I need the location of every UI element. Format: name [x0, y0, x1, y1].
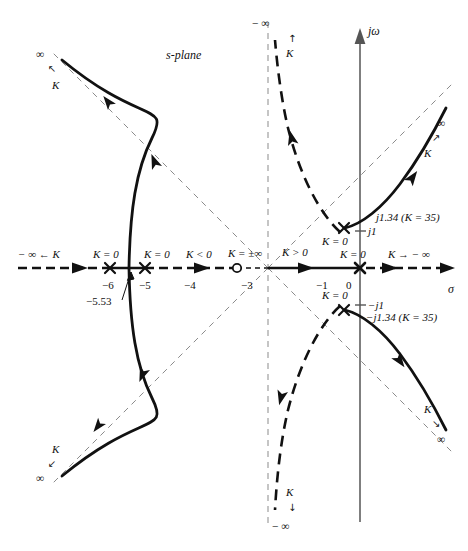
asymptote-lines [52, 22, 452, 524]
k-infinite-label: K = ±∞ [228, 248, 262, 259]
imaginary-axis-label: jω [368, 25, 380, 37]
k-label-bottom-vertical: K [286, 487, 293, 498]
infinity-label-top-right: ∞ [437, 118, 445, 130]
k-label-bottom-left: K [52, 444, 59, 455]
branch-arrow-bottom-vertical: ↓ [288, 503, 296, 513]
root-locus-plot [0, 0, 468, 551]
root-locus-figure: s-plane jω σ −6 −5 −4 −3 −1 0 j1 −j1 −5.… [0, 0, 468, 551]
jw-crossing-upper-label: j1.34 (K = 35) [376, 212, 440, 223]
tick-label-minus5: −5 [139, 280, 151, 291]
k-label-top-left: K [52, 80, 59, 91]
k-label-bottom-right: K [424, 404, 431, 415]
k-zero-label-complex-upper: K = 0 [322, 236, 348, 247]
real-axis-label: σ [448, 283, 454, 295]
k-zero-label-origin: K = 0 [340, 249, 366, 260]
s-plane-label: s-plane [166, 49, 201, 61]
k-to-minus-infinity-right-label: K → − ∞ [388, 249, 430, 260]
infinity-label-top-left: ∞ [36, 49, 44, 61]
asymptote-225deg [52, 268, 268, 484]
branch-arrow-top-right: ↗ [432, 133, 440, 143]
k-label-top-right: K [424, 148, 431, 159]
branch-arrow-top-vertical: ↑ [288, 34, 296, 44]
jw-crossing-lower-label: −j1.34 (K = 35) [366, 312, 437, 323]
k-zero-label-minus6: K = 0 [93, 249, 119, 260]
k-positive-label: K > 0 [282, 247, 308, 258]
imaginary-axis [355, 28, 366, 522]
branch-arrow-bottom-left: ↙ [48, 459, 56, 469]
tick-label-j1: j1 [368, 226, 377, 237]
k-negative-label: K < 0 [186, 249, 212, 260]
tick-label-minus4: −4 [184, 280, 196, 291]
infinity-label-bottom-right: ∞ [437, 434, 445, 446]
minus-infinity-label-top: − ∞ [252, 18, 270, 30]
locus-dashed-upper [275, 40, 340, 232]
infinity-label-bottom-left: ∞ [36, 473, 44, 485]
branch-arrow-top-left: ↖ [48, 64, 56, 74]
minus-infinity-label-bottom: − ∞ [272, 521, 290, 533]
k-zero-label-complex-lower: K = 0 [322, 290, 348, 301]
tick-label-minus-j1: −j1 [368, 300, 384, 311]
locus-positive-k-arrows [90, 93, 422, 435]
k-to-minus-infinity-left-label: − ∞ ← K [18, 249, 60, 260]
locus-negative-k [275, 40, 340, 510]
tick-label-minus3: −3 [241, 280, 253, 291]
k-label-top-vertical: K [286, 48, 293, 59]
locus-branch-upper-left [48, 43, 149, 268]
breakaway-label: −5.53 [86, 296, 111, 307]
locus-branch-upper-left-real [62, 60, 157, 268]
k-zero-label-minus5: K = 0 [144, 249, 170, 260]
tick-label-minus6: −6 [102, 280, 114, 291]
zero-markers [233, 264, 241, 272]
zero-marker [233, 264, 241, 272]
asymptote-135deg [52, 52, 268, 268]
locus-dashed-lower [275, 306, 340, 510]
branch-arrow-bottom-right: ↘ [432, 419, 440, 429]
